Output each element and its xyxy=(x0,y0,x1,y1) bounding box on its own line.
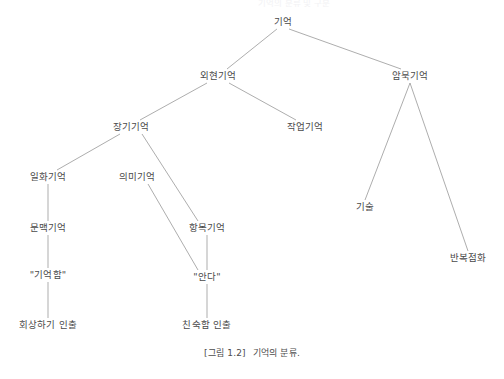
tree-node-label: 회상하기 인출 xyxy=(19,319,77,330)
tree-node-label: "기억함" xyxy=(30,269,67,280)
figure-caption: [그림 1.2]기억의 분류. xyxy=(0,346,504,359)
tree-edge-implicit-to-skill xyxy=(365,83,410,200)
tree-node-label: 문맥기억 xyxy=(30,222,67,233)
tree-node-familiarity: 친숙함 인출 xyxy=(182,320,231,330)
tree-node-semantic: 의미기억 xyxy=(119,172,156,182)
tree-node-know: "안다" xyxy=(193,272,221,282)
tree-node-skill: 기술 xyxy=(356,202,374,212)
tree-node-priming: 반복점화 xyxy=(450,253,487,263)
tree-node-context: 문맥기억 xyxy=(30,223,67,233)
tree-node-label: 일화기억 xyxy=(30,171,67,182)
figure-caption-number: [그림 1.2] xyxy=(204,348,246,358)
tree-edge-implicit-to-priming xyxy=(410,83,468,251)
tree-node-label: 기술 xyxy=(356,201,374,212)
tree-edge-memory-to-implicit xyxy=(289,29,401,69)
tree-node-label: 장기기억 xyxy=(113,121,150,132)
tree-node-label: 친숙함 인출 xyxy=(182,319,231,330)
tree-node-item: 항목기억 xyxy=(189,223,226,233)
tree-edge-explicit-to-working xyxy=(229,83,296,120)
tree-node-label: 작업기억 xyxy=(287,121,324,132)
figure-canvas: 기억의 분류 및 구분 기억외현기억암묵기억장기기억작업기억일화기억의미기억문맥… xyxy=(0,0,504,379)
tree-node-recollection: 회상하기 인출 xyxy=(19,320,77,330)
tree-node-label: 기억 xyxy=(274,16,292,27)
tree-node-memory: 기억 xyxy=(274,17,292,27)
figure-caption-text: 기억의 분류. xyxy=(253,348,300,358)
tree-node-working: 작업기억 xyxy=(287,122,324,132)
tree-node-label: "안다" xyxy=(193,271,221,282)
tree-node-label: 반복점화 xyxy=(450,252,487,263)
tree-node-episodic: 일화기억 xyxy=(30,172,67,182)
tree-node-label: 암묵기억 xyxy=(392,70,429,81)
tree-node-label: 외현기억 xyxy=(200,70,237,81)
tree-edge-longterm-to-episodic xyxy=(57,134,120,170)
tree-node-label: 의미기억 xyxy=(119,171,156,182)
tree-edge-memory-to-explicit xyxy=(227,29,277,69)
tree-node-explicit: 외현기억 xyxy=(200,71,237,81)
tree-node-implicit: 암묵기억 xyxy=(392,71,429,81)
tree-node-label: 항목기억 xyxy=(189,222,226,233)
tree-node-longterm: 장기기억 xyxy=(113,122,150,132)
tree-node-remember: "기억함" xyxy=(30,270,67,280)
tree-edge-explicit-to-longterm xyxy=(140,83,207,120)
